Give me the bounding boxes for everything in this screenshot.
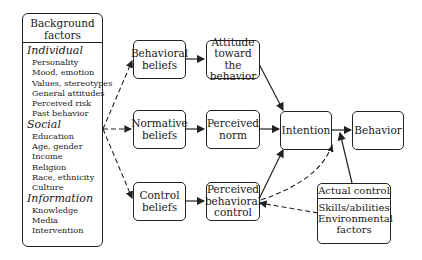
factor-item: Mood, emotion bbox=[27, 67, 102, 77]
dashed-arrow-to-behavioral-beliefs bbox=[103, 61, 132, 129]
factor-item: Knowledge bbox=[27, 205, 102, 215]
dashed-arrow-actual-to-perceived-control bbox=[260, 203, 318, 213]
perceived-behavioral-control-node: Perceivedbehavioralcontrol bbox=[206, 182, 260, 221]
category-information: Information bbox=[27, 193, 102, 205]
factor-item: Race, ethnicity bbox=[27, 172, 102, 182]
normative-beliefs-node: Normativebeliefs bbox=[133, 110, 186, 149]
background-factors-title: Background factors bbox=[23, 14, 102, 43]
dashed-arrow-to-control-beliefs bbox=[103, 129, 132, 198]
attitude-node: Attitudetoward thebehavior bbox=[206, 40, 260, 79]
factor-item: Religion bbox=[27, 162, 102, 172]
factor-item: Perceived risk bbox=[27, 98, 102, 108]
factor-item: Intervention bbox=[27, 225, 102, 235]
factor-item: General attitudes bbox=[27, 88, 102, 98]
factor-item: Media bbox=[27, 215, 102, 225]
factor-item: Values, stereotypes bbox=[27, 78, 102, 88]
actual-control-title: Actual control bbox=[318, 184, 390, 199]
intention-node: Intention bbox=[280, 111, 332, 150]
perceived-norm-node: Perceivednorm bbox=[206, 110, 260, 149]
factor-item: Income bbox=[27, 151, 102, 161]
actual-control-box: Actual control Skills/abilities Environm… bbox=[317, 183, 391, 244]
control-beliefs-node: Controlbeliefs bbox=[133, 182, 186, 221]
factor-item: Personality bbox=[27, 57, 102, 67]
behavioral-beliefs-node: Behavioralbeliefs bbox=[133, 40, 186, 79]
behavior-node: Behavior bbox=[352, 111, 404, 150]
factor-item: Age, gender bbox=[27, 141, 102, 151]
category-social: Social bbox=[27, 119, 102, 131]
category-individual: Individual bbox=[27, 45, 102, 57]
factor-item: Education bbox=[27, 131, 102, 141]
background-factors-box: Background factors Individual Personalit… bbox=[22, 13, 103, 247]
